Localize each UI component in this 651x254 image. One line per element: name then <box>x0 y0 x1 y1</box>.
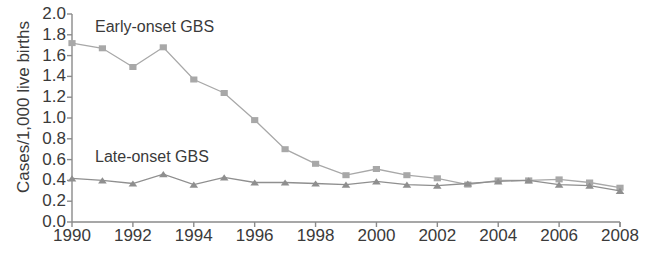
data-point-marker <box>434 175 441 181</box>
data-point-marker <box>160 44 167 50</box>
plot-area <box>0 0 651 254</box>
series-early-onset <box>68 40 623 191</box>
data-point-marker <box>68 40 75 46</box>
data-point-marker <box>159 171 168 177</box>
series-label-late-onset: Late-onset GBS <box>95 148 209 166</box>
gbs-incidence-chart: Cases/1,000 live births 0.00.20.40.60.81… <box>0 0 651 254</box>
series-label-early-onset: Early-onset GBS <box>95 18 214 36</box>
data-point-marker <box>251 117 258 123</box>
data-point-marker <box>99 45 106 51</box>
data-point-marker <box>129 64 136 70</box>
data-point-marker <box>221 90 228 96</box>
series-line <box>72 43 620 188</box>
data-point-marker <box>282 146 289 152</box>
data-point-marker <box>312 161 319 167</box>
data-point-marker <box>403 172 410 178</box>
data-point-marker <box>373 166 380 172</box>
data-point-marker <box>342 172 349 178</box>
data-point-marker <box>190 77 197 83</box>
data-point-marker <box>190 182 199 188</box>
